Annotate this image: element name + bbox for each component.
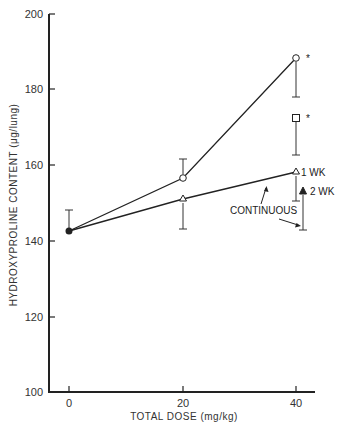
triangle-marker-40 [293, 168, 300, 174]
y-tick-100: 100 [25, 386, 43, 398]
filled-triangle-marker-40 [300, 187, 307, 194]
x-tick-0: 0 [66, 397, 72, 409]
x-tick-40: 40 [290, 397, 302, 409]
two-wk-label: 2 WK [310, 186, 335, 197]
y-tick-180: 180 [25, 83, 43, 95]
x-tick-labels: 0 20 40 [66, 397, 302, 409]
arrow-head-icon [295, 223, 301, 228]
control-filled-circle-marker [66, 228, 73, 235]
significance-star-square: * [306, 113, 310, 124]
significance-star-circle: * [306, 53, 310, 64]
y-tick-labels: 200 180 160 140 120 100 [25, 8, 43, 398]
y-axis-title: HYDROXYPROLINE CONTENT (μg/lung) [8, 104, 19, 307]
square-marker-40 [293, 115, 300, 122]
circle-marker-40 [293, 55, 300, 62]
chart: 200 180 160 140 120 100 0 20 40 TOTAL DO… [0, 0, 341, 428]
y-tick-160: 160 [25, 159, 43, 171]
continuous-label: CONTINUOUS [230, 205, 298, 216]
circle-marker-20 [180, 175, 187, 182]
y-tick-200: 200 [25, 8, 43, 20]
y-tick-140: 140 [25, 235, 43, 247]
one-wk-label: 1 WK [301, 167, 326, 178]
arrow-head-icon [264, 186, 269, 192]
axes [48, 14, 315, 393]
x-tick-20: 20 [177, 397, 189, 409]
y-tick-120: 120 [25, 311, 43, 323]
x-axis-title: TOTAL DOSE (mg/kg) [130, 411, 238, 422]
